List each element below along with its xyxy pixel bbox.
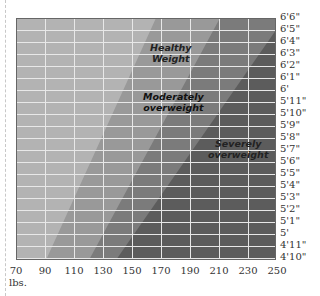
y-tick-label: 5' <box>280 228 289 238</box>
y-tick-label: 6'5" <box>280 24 300 34</box>
moderately-overweight-label: Moderately overweight <box>143 91 204 113</box>
y-tick-label: 5'10" <box>280 108 306 118</box>
severe-label-line2: overweight <box>208 149 268 160</box>
y-tick-label: 5'11" <box>280 96 306 106</box>
moderate-label-line2: overweight <box>143 102 204 113</box>
y-tick-label: 5'9" <box>280 120 300 130</box>
x-tick-label: 150 <box>122 265 141 276</box>
y-tick-label: 5'6" <box>280 156 300 166</box>
y-tick-label: 5'2" <box>280 204 300 214</box>
x-tick-label: 230 <box>238 265 257 276</box>
y-tick-label: 6'1" <box>280 72 300 82</box>
x-tick-label: 110 <box>64 265 83 276</box>
y-tick-label: 4'10" <box>280 252 306 262</box>
x-tick-label: 250 <box>267 265 286 276</box>
severe-label-line1: Severely <box>208 138 268 149</box>
y-tick-label: 4'11" <box>280 240 306 250</box>
y-tick-label: 6'4" <box>280 36 300 46</box>
severely-overweight-label: Severely overweight <box>208 138 268 160</box>
x-tick-label: 210 <box>209 265 228 276</box>
y-tick-label: 6'3" <box>280 48 300 58</box>
y-tick-label: 6'2" <box>280 60 300 70</box>
dashed-margin-line <box>5 0 6 296</box>
y-tick-label: 6'6" <box>280 12 300 22</box>
y-tick-label: 5'8" <box>280 132 300 142</box>
x-tick-label: 70 <box>10 265 23 276</box>
x-tick-label: 90 <box>39 265 52 276</box>
moderate-label-line1: Moderately <box>143 91 204 102</box>
x-tick-label: 170 <box>151 265 170 276</box>
y-tick-label: 5'3" <box>280 192 300 202</box>
y-tick-label: 5'5" <box>280 168 300 178</box>
y-tick-label: 5'4" <box>280 180 300 190</box>
y-tick-label: 5'7" <box>280 144 300 154</box>
healthy-label-line2: Weight <box>150 53 192 64</box>
y-tick-label: 5'1" <box>280 216 300 226</box>
x-axis-unit: lbs. <box>9 277 27 288</box>
healthy-label-line1: Healthy <box>150 42 192 53</box>
x-tick-label: 190 <box>180 265 199 276</box>
x-tick-label: 130 <box>93 265 112 276</box>
healthy-weight-label: Healthy Weight <box>150 42 192 64</box>
y-tick-label: 6' <box>280 84 289 94</box>
